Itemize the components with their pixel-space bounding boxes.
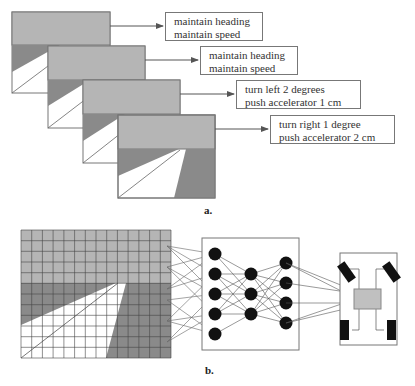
action-box-3: turn left 2 degrees push accelerator 1 c… [236,80,361,109]
caption-b: b. [205,364,214,376]
action-box-4: turn right 1 degree push accelerator 2 c… [270,115,395,144]
caption-a: a. [204,204,212,216]
frame-4 [118,115,215,198]
action-box-2: maintain heading maintain speed [200,46,298,75]
action-line: turn left 2 degrees [245,83,360,96]
input-node [209,248,222,261]
action-line: maintain heading [209,49,297,62]
action-line: push accelerator 2 cm [279,131,394,144]
hidden-node [245,268,258,281]
action-line: maintain speed [209,62,297,75]
action-box-1: maintain heading maintain speed [165,12,263,41]
action-line: maintain speed [174,28,262,41]
car-diagram [337,253,401,345]
action-line: maintain heading [174,15,262,28]
action-line: turn right 1 degree [279,118,394,131]
controller-box [354,289,381,309]
action-line: push accelerator 1 cm [245,96,360,109]
neural-network [202,238,299,350]
input-image-grid [21,230,171,358]
